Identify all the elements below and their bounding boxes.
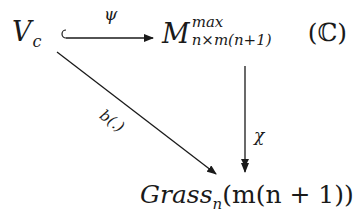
node-m-subscript: n×m(n+1) — [192, 31, 272, 49]
node-g-base: Grass — [140, 180, 213, 209]
node-vc-subscript: c — [33, 32, 42, 51]
node-matrix-space: M max n×m(n+1) (ℂ) — [162, 14, 304, 54]
arrow-b — [57, 52, 216, 174]
arrow-psi — [62, 30, 153, 38]
arrow-chi — [241, 66, 249, 172]
label-chi: χ — [254, 125, 264, 145]
node-g-argument: (m(n + 1)) — [222, 180, 354, 209]
node-m-base: M — [162, 18, 190, 49]
node-g-subscript: n — [213, 195, 223, 213]
label-psi: ψ — [104, 4, 117, 24]
node-m-argument: (ℂ) — [308, 18, 347, 47]
node-grassmannian: Grassn(m(n + 1)) — [140, 180, 354, 209]
node-m-superscript: max — [192, 13, 224, 31]
node-vc-base: V — [12, 16, 32, 47]
node-vc: Vc — [12, 16, 41, 47]
